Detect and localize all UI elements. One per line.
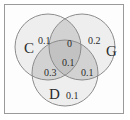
venn-diagram <box>0 0 130 120</box>
figure-frame: C G D 0.1 0.2 0.1 0 0.1 0.3 0.1 <box>4 4 124 114</box>
